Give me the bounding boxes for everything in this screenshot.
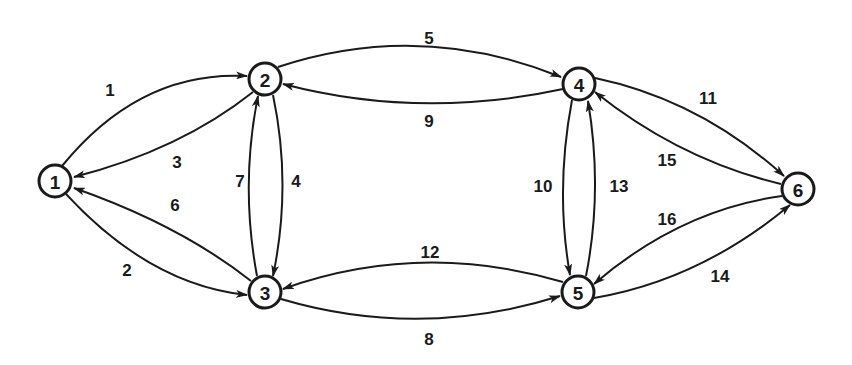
directed-graph-diagram: 12364759812101311151614 123456 bbox=[0, 0, 852, 365]
node-label: 3 bbox=[260, 283, 271, 304]
node-label: 5 bbox=[573, 283, 584, 304]
edge-label: 7 bbox=[235, 172, 244, 191]
edge-label: 15 bbox=[658, 151, 677, 170]
node-label: 6 bbox=[793, 180, 804, 201]
node-label: 4 bbox=[574, 75, 585, 96]
node-label: 2 bbox=[260, 70, 271, 91]
edge-label: 13 bbox=[610, 177, 629, 196]
node-2: 2 bbox=[249, 63, 281, 95]
edge-label: 9 bbox=[424, 112, 433, 131]
edge-6-to-4 bbox=[595, 92, 781, 184]
nodes-layer: 123456 bbox=[39, 63, 814, 308]
edge-label: 8 bbox=[424, 330, 433, 349]
edge-6-to-5 bbox=[594, 196, 782, 284]
edge-5-to-3 bbox=[283, 263, 563, 289]
edge-4-to-5 bbox=[563, 100, 572, 275]
edge-4-to-2 bbox=[283, 84, 563, 103]
edge-label: 16 bbox=[658, 210, 677, 229]
edge-2-to-3 bbox=[273, 95, 283, 276]
edge-label: 11 bbox=[699, 89, 717, 108]
node-5: 5 bbox=[562, 276, 594, 308]
edge-label: 6 bbox=[170, 196, 179, 215]
edges-layer bbox=[62, 46, 790, 319]
edge-label: 4 bbox=[291, 172, 301, 191]
edge-3-to-5 bbox=[281, 296, 560, 319]
edge-1-to-3 bbox=[66, 194, 247, 295]
edge-labels-layer: 12364759812101311151614 bbox=[105, 29, 730, 349]
edge-label: 2 bbox=[122, 261, 131, 280]
edge-2-to-4 bbox=[278, 46, 561, 77]
node-4: 4 bbox=[563, 68, 595, 100]
edge-5-to-6 bbox=[594, 205, 790, 298]
node-label: 1 bbox=[50, 172, 61, 193]
edge-label: 1 bbox=[105, 81, 114, 100]
edge-1-to-2 bbox=[62, 76, 247, 166]
node-6: 6 bbox=[782, 173, 814, 205]
graph-svg: 12364759812101311151614 123456 bbox=[0, 0, 852, 365]
edge-label: 14 bbox=[711, 267, 730, 286]
edge-5-to-4 bbox=[586, 101, 595, 276]
edge-label: 3 bbox=[172, 153, 181, 172]
edge-3-to-2 bbox=[249, 96, 258, 276]
edge-label: 12 bbox=[421, 243, 440, 262]
edge-3-to-1 bbox=[74, 188, 251, 281]
edge-label: 5 bbox=[424, 29, 433, 48]
edge-4-to-6 bbox=[595, 78, 784, 176]
node-1: 1 bbox=[39, 165, 71, 197]
edge-2-to-1 bbox=[74, 92, 253, 177]
node-3: 3 bbox=[249, 276, 281, 308]
edge-label: 10 bbox=[534, 177, 553, 196]
